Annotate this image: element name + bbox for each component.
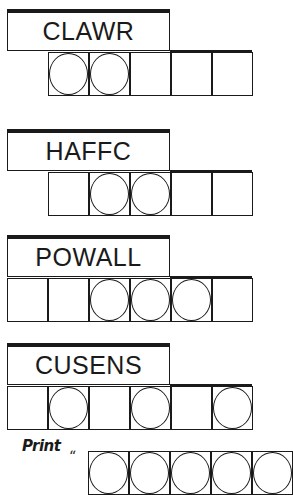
letter-cell[interactable] — [48, 278, 89, 322]
letter-cell[interactable] — [171, 52, 212, 96]
scrambled-word-label: HAFFC — [7, 129, 170, 171]
letter-cell-circled[interactable] — [130, 386, 171, 430]
letter-cell-circled[interactable] — [89, 52, 130, 96]
letter-cell[interactable] — [171, 386, 212, 430]
letter-cell-circled[interactable] — [89, 172, 130, 216]
letter-cell[interactable] — [7, 278, 48, 322]
scrambled-word-label: CUSENS — [7, 343, 170, 385]
letter-cell[interactable] — [212, 278, 253, 322]
letter-cell-circled[interactable] — [212, 386, 253, 430]
letter-cell-circled[interactable] — [89, 278, 130, 322]
answer-letter-cell[interactable] — [129, 451, 170, 495]
scrambled-word-label: POWALL — [7, 235, 170, 277]
letter-cell[interactable] — [89, 386, 130, 430]
letter-cell-circled[interactable] — [130, 278, 171, 322]
letter-cell[interactable] — [171, 172, 212, 216]
letter-cell-circled[interactable] — [130, 172, 171, 216]
letter-cell-circled[interactable] — [48, 52, 89, 96]
answer-letter-cell[interactable] — [88, 451, 129, 495]
letter-cell[interactable] — [7, 386, 48, 430]
answer-letter-cell[interactable] — [170, 451, 211, 495]
letter-cell-circled[interactable] — [171, 278, 212, 322]
letter-cell[interactable] — [130, 52, 171, 96]
open-quote-mark: “ — [69, 448, 76, 464]
scrambled-word-label: CLAWR — [7, 9, 170, 51]
answer-letter-cell[interactable] — [252, 451, 293, 495]
letter-cell[interactable] — [212, 172, 253, 216]
answer-letter-cell[interactable] — [211, 451, 252, 495]
print-answer-label: Print — [22, 437, 60, 455]
letter-cell[interactable] — [48, 172, 89, 216]
letter-cell-circled[interactable] — [48, 386, 89, 430]
letter-cell[interactable] — [212, 52, 253, 96]
